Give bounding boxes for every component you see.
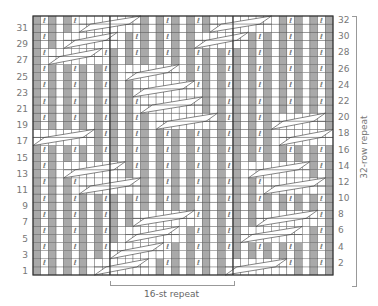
svg-text:ℓ: ℓ — [165, 195, 169, 203]
row-number: 23 — [8, 88, 28, 98]
row-number: 13 — [8, 169, 28, 179]
svg-text:ℓ: ℓ — [73, 98, 77, 106]
svg-text:ℓ: ℓ — [104, 98, 108, 106]
svg-text:ℓ: ℓ — [288, 98, 292, 106]
row-number: 25 — [8, 72, 28, 82]
svg-text:ℓ: ℓ — [104, 195, 108, 203]
svg-text:ℓ: ℓ — [165, 178, 169, 186]
svg-text:ℓ: ℓ — [257, 49, 261, 57]
svg-text:ℓ: ℓ — [165, 162, 169, 170]
svg-text:ℓ: ℓ — [196, 259, 200, 267]
row-number: 17 — [8, 136, 28, 146]
svg-text:ℓ: ℓ — [42, 81, 46, 89]
svg-text:ℓ: ℓ — [104, 243, 108, 251]
svg-text:ℓ: ℓ — [104, 227, 108, 235]
svg-text:ℓ: ℓ — [319, 162, 323, 170]
svg-text:ℓ: ℓ — [42, 178, 46, 186]
svg-text:ℓ: ℓ — [257, 114, 261, 122]
svg-text:ℓ: ℓ — [257, 98, 261, 106]
svg-text:ℓ: ℓ — [73, 211, 77, 219]
svg-text:ℓ: ℓ — [165, 146, 169, 154]
svg-text:ℓ: ℓ — [257, 33, 261, 41]
svg-text:ℓ: ℓ — [257, 178, 261, 186]
svg-text:ℓ: ℓ — [288, 195, 292, 203]
row-number: 3 — [8, 250, 28, 260]
stitch-repeat-label: 16-st repeat — [110, 289, 233, 299]
svg-text:ℓ: ℓ — [227, 178, 231, 186]
svg-text:ℓ: ℓ — [319, 259, 323, 267]
svg-text:ℓ: ℓ — [73, 17, 77, 25]
svg-text:ℓ: ℓ — [227, 98, 231, 106]
row-number: 1 — [8, 266, 28, 276]
svg-text:ℓ: ℓ — [42, 195, 46, 203]
svg-text:ℓ: ℓ — [257, 81, 261, 89]
svg-text:ℓ: ℓ — [288, 17, 292, 25]
svg-text:ℓ: ℓ — [134, 33, 138, 41]
svg-text:ℓ: ℓ — [196, 17, 200, 25]
svg-text:ℓ: ℓ — [319, 65, 323, 73]
svg-text:ℓ: ℓ — [196, 49, 200, 57]
svg-text:ℓ: ℓ — [227, 227, 231, 235]
svg-text:ℓ: ℓ — [73, 81, 77, 89]
svg-text:ℓ: ℓ — [42, 114, 46, 122]
row-number: 29 — [8, 39, 28, 49]
row-number: 21 — [8, 104, 28, 114]
svg-text:ℓ: ℓ — [196, 178, 200, 186]
svg-text:ℓ: ℓ — [42, 65, 46, 73]
svg-text:ℓ: ℓ — [134, 114, 138, 122]
svg-text:ℓ: ℓ — [227, 65, 231, 73]
svg-text:ℓ: ℓ — [227, 195, 231, 203]
svg-text:ℓ: ℓ — [165, 33, 169, 41]
svg-text:ℓ: ℓ — [227, 49, 231, 57]
svg-text:ℓ: ℓ — [196, 146, 200, 154]
svg-text:ℓ: ℓ — [227, 146, 231, 154]
svg-text:ℓ: ℓ — [104, 65, 108, 73]
svg-text:ℓ: ℓ — [42, 146, 46, 154]
svg-text:ℓ: ℓ — [288, 33, 292, 41]
svg-text:ℓ: ℓ — [42, 17, 46, 25]
svg-text:ℓ: ℓ — [134, 162, 138, 170]
svg-text:ℓ: ℓ — [288, 259, 292, 267]
svg-text:ℓ: ℓ — [319, 227, 323, 235]
svg-text:ℓ: ℓ — [165, 17, 169, 25]
svg-text:ℓ: ℓ — [165, 243, 169, 251]
svg-text:ℓ: ℓ — [104, 114, 108, 122]
svg-text:ℓ: ℓ — [165, 49, 169, 57]
svg-text:ℓ: ℓ — [319, 243, 323, 251]
svg-text:ℓ: ℓ — [227, 114, 231, 122]
svg-text:ℓ: ℓ — [104, 146, 108, 154]
svg-text:ℓ: ℓ — [227, 81, 231, 89]
svg-text:ℓ: ℓ — [196, 243, 200, 251]
svg-text:ℓ: ℓ — [196, 211, 200, 219]
svg-text:ℓ: ℓ — [73, 227, 77, 235]
svg-text:ℓ: ℓ — [104, 81, 108, 89]
row-number: 31 — [8, 23, 28, 33]
svg-text:ℓ: ℓ — [196, 65, 200, 73]
svg-text:ℓ: ℓ — [196, 195, 200, 203]
row-number: 11 — [8, 185, 28, 195]
row-repeat-bracket — [352, 16, 357, 287]
svg-text:ℓ: ℓ — [73, 146, 77, 154]
svg-text:ℓ: ℓ — [319, 49, 323, 57]
svg-text:ℓ: ℓ — [42, 49, 46, 57]
svg-text:ℓ: ℓ — [319, 195, 323, 203]
svg-text:ℓ: ℓ — [319, 33, 323, 41]
svg-text:ℓ: ℓ — [73, 178, 77, 186]
svg-text:ℓ: ℓ — [42, 33, 46, 41]
svg-text:ℓ: ℓ — [227, 211, 231, 219]
svg-text:ℓ: ℓ — [257, 130, 261, 138]
svg-text:ℓ: ℓ — [104, 211, 108, 219]
svg-text:ℓ: ℓ — [73, 114, 77, 122]
svg-text:ℓ: ℓ — [319, 98, 323, 106]
svg-text:ℓ: ℓ — [134, 98, 138, 106]
svg-text:ℓ: ℓ — [227, 162, 231, 170]
knitting-chart-grid: ℓℓℓℓℓℓℓℓℓℓℓℓℓℓℓℓℓℓℓℓℓℓℓℓℓℓℓℓℓℓℓℓℓℓℓℓℓℓℓℓ… — [0, 0, 378, 306]
svg-text:ℓ: ℓ — [196, 227, 200, 235]
svg-text:ℓ: ℓ — [73, 195, 77, 203]
svg-text:ℓ: ℓ — [196, 130, 200, 138]
svg-text:ℓ: ℓ — [165, 130, 169, 138]
svg-text:ℓ: ℓ — [42, 98, 46, 106]
svg-text:ℓ: ℓ — [319, 146, 323, 154]
svg-text:ℓ: ℓ — [319, 17, 323, 25]
svg-text:ℓ: ℓ — [42, 162, 46, 170]
